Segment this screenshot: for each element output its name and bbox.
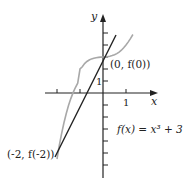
y-axis-arrow-icon: [100, 14, 106, 22]
y-tick-label-1: 1: [96, 76, 102, 87]
point-label-top: (0, f(0)): [110, 58, 150, 70]
secant-line: [55, 35, 116, 157]
x-tick-label-1: 1: [123, 97, 129, 108]
cubic-curve-upper: [57, 35, 133, 160]
equation-label: f(x) = x³ + 3: [116, 123, 183, 135]
x-axis-label: x: [151, 95, 158, 108]
function-graph: y x 1 1 (0, f(0)) (-2, f(-2)) f(x) = x³ …: [0, 0, 191, 186]
y-axis-label: y: [90, 10, 98, 23]
point-label-bottom: (-2, f(-2)): [7, 148, 54, 160]
